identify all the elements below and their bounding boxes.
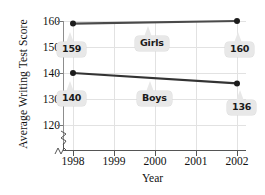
callout-girls-1998: 159 [57, 42, 86, 57]
x-tick-label-1998: 1998 [53, 155, 93, 167]
series-label-text: Girls [140, 37, 164, 48]
y-axis-break-icon [58, 130, 70, 146]
callout-tail-icon [146, 81, 154, 92]
callout-tail-icon [236, 90, 244, 101]
chart-figure: Average Writing Test Score 160 150 140 1… [0, 0, 265, 195]
callout-girls-2002: 160 [225, 42, 254, 57]
line-boys [73, 73, 237, 83]
y-tick-label-160: 160 [26, 15, 60, 27]
point-girls-2002 [234, 18, 240, 24]
callout-tail-icon [144, 26, 152, 37]
x-tick-label-1999: 1999 [94, 155, 134, 167]
axis-corner-connector [63, 143, 64, 151]
y-tick-label-130: 130 [26, 93, 60, 105]
x-tick-label-2002: 2002 [217, 155, 257, 167]
series-label-boys: Boys [137, 91, 172, 106]
point-girls-1998 [70, 21, 76, 27]
callout-value: 159 [62, 43, 81, 54]
point-boys-1998 [70, 70, 76, 76]
callout-value: 160 [230, 43, 249, 54]
y-tick-label-140: 140 [26, 67, 60, 79]
callout-tail-icon [234, 32, 242, 43]
callout-value: 140 [62, 92, 81, 103]
x-tick-label-2000: 2000 [135, 155, 175, 167]
callout-tail-icon [66, 81, 74, 92]
series-label-girls: Girls [135, 36, 169, 51]
y-axis-title: Average Writing Test Score [17, 9, 29, 159]
line-girls [73, 21, 237, 24]
y-tick-label-150: 150 [26, 41, 60, 53]
series-label-text: Boys [142, 92, 167, 103]
point-boys-2002 [234, 80, 240, 86]
callout-tail-icon [66, 32, 74, 43]
callout-value: 136 [232, 101, 251, 112]
x-axis-title: Year [60, 172, 245, 184]
callout-boys-1998: 140 [57, 91, 86, 106]
callout-boys-2002: 136 [227, 100, 256, 115]
x-tick-label-2001: 2001 [176, 155, 216, 167]
y-tick-label-120: 120 [26, 119, 60, 131]
